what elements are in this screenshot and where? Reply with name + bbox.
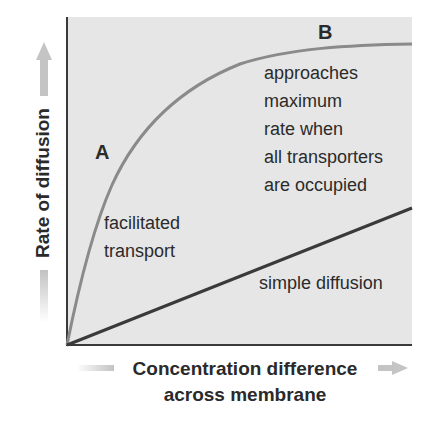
x-arrow-tail-icon xyxy=(76,365,114,371)
y-arrow-tail-icon xyxy=(40,270,48,322)
x-arrow-head-icon xyxy=(392,361,408,375)
label-A: A xyxy=(95,141,109,163)
svg-text:transport: transport xyxy=(104,241,175,261)
y-arrow-head-icon xyxy=(36,42,52,60)
svg-text:are occupied: are occupied xyxy=(264,175,367,195)
svg-text:maximum: maximum xyxy=(264,91,342,111)
diffusion-chart: A B approaches maximum rate when all tra… xyxy=(0,0,438,421)
x-arrow-shaft-icon xyxy=(378,365,394,371)
x-axis-title-line-2: across membrane xyxy=(164,384,327,405)
svg-text:approaches: approaches xyxy=(264,63,358,83)
svg-text:all transporters: all transporters xyxy=(264,147,383,167)
label-B: B xyxy=(318,21,332,43)
x-axis-title-line-1: Concentration difference xyxy=(133,358,358,379)
simple-diffusion-label: simple diffusion xyxy=(259,273,383,293)
y-axis-title: Rate of diffusion xyxy=(32,108,53,258)
y-arrow-shaft-icon xyxy=(40,58,48,96)
svg-text:facilitated: facilitated xyxy=(104,213,180,233)
y-axis-title-group: Rate of diffusion xyxy=(32,42,53,322)
svg-text:rate when: rate when xyxy=(264,119,343,139)
x-axis-title-group: Concentration difference across membrane xyxy=(76,358,408,405)
